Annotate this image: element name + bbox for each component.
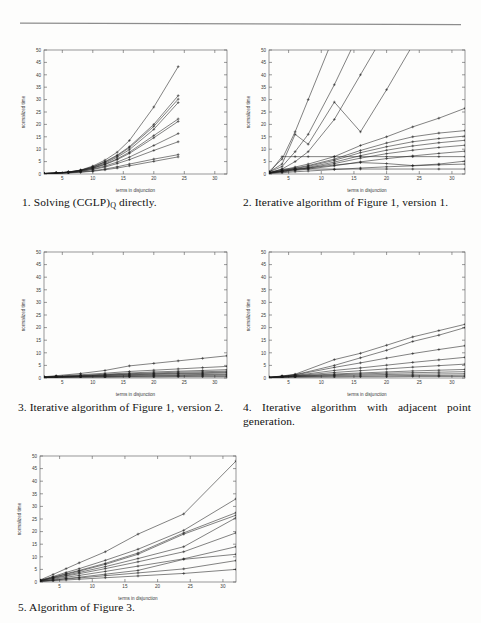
x-tick-label: 25 — [182, 176, 188, 181]
x-tick-label: 5 — [61, 176, 64, 181]
y-tick-label: 25 — [32, 517, 38, 522]
x-tick-label: 20 — [384, 176, 390, 181]
y-tick-label: 15 — [261, 135, 267, 140]
y-tick-label: 45 — [261, 60, 267, 65]
figure-4-caption: 4. Iterative algorithm with adjacent poi… — [243, 401, 471, 429]
series-line — [269, 44, 465, 173]
y-tick-label: 50 — [36, 250, 42, 255]
series-line — [44, 103, 178, 174]
y-tick-label: 5 — [34, 567, 37, 572]
y-tick-label: 50 — [32, 454, 38, 459]
y-tick-label: 20 — [261, 122, 267, 127]
figure-1-plot: 0510152025303540455051015202530terms in … — [18, 44, 233, 194]
figure-3-plot: 0510152025303540455051015202530terms in … — [18, 246, 233, 398]
x-tick-label: 15 — [122, 584, 128, 589]
plot-frame — [44, 252, 227, 378]
series-group — [43, 354, 229, 379]
x-tick-label: 5 — [287, 380, 290, 385]
x-tick-label: 20 — [151, 380, 157, 385]
y-tick-label: 40 — [32, 479, 38, 484]
series-line — [44, 67, 178, 174]
chart-svg: 0510152025303540455051015202530terms in … — [243, 44, 471, 194]
y-tick-label: 30 — [261, 300, 267, 305]
y-tick-label: 15 — [32, 542, 38, 547]
chart-svg: 0510152025303540455051015202530terms in … — [14, 450, 242, 602]
plot-frame — [269, 50, 465, 174]
x-tick-label: 15 — [351, 176, 357, 181]
y-tick-label: 25 — [261, 110, 267, 115]
x-axis-label: terms in disjunction — [347, 188, 387, 193]
x-tick-label: 10 — [90, 584, 96, 589]
y-tick-label: 40 — [261, 275, 267, 280]
y-tick-label: 25 — [36, 313, 42, 318]
y-tick-label: 10 — [261, 351, 267, 356]
y-tick-label: 30 — [32, 504, 38, 509]
y-tick-label: 45 — [261, 262, 267, 267]
y-tick-label: 20 — [36, 122, 42, 127]
y-tick-label: 40 — [36, 275, 42, 280]
y-tick-label: 20 — [32, 529, 38, 534]
x-tick-label: 10 — [90, 176, 96, 181]
y-tick-label: 45 — [36, 60, 42, 65]
figure-5-caption: 5. Algorithm of Figure 3. — [18, 601, 258, 615]
y-tick-label: 10 — [261, 147, 267, 152]
series-group — [43, 65, 180, 175]
x-axis-label: terms in disjunction — [118, 596, 158, 601]
series-line — [269, 324, 465, 377]
series-group — [268, 44, 467, 175]
figure-3-caption: 3. Iterative algorithm of Figure 1, vers… — [18, 401, 230, 415]
y-tick-label: 15 — [36, 338, 42, 343]
x-tick-label: 15 — [121, 380, 127, 385]
y-tick-label: 35 — [32, 492, 38, 497]
y-tick-label: 15 — [261, 338, 267, 343]
y-axis-label: normalized time — [17, 502, 22, 535]
y-tick-label: 15 — [36, 135, 42, 140]
figure-1-caption-text-before: Solving (CGLP) — [34, 196, 110, 208]
y-tick-label: 30 — [261, 97, 267, 102]
x-tick-label: 20 — [155, 584, 161, 589]
y-tick-label: 45 — [36, 262, 42, 267]
figure-4-plot: 0510152025303540455051015202530terms in … — [243, 246, 471, 398]
y-tick-label: 30 — [36, 300, 42, 305]
x-tick-label: 20 — [384, 380, 390, 385]
y-tick-label: 0 — [38, 172, 41, 177]
y-tick-label: 45 — [32, 466, 38, 471]
x-tick-label: 10 — [319, 380, 325, 385]
y-tick-label: 25 — [36, 110, 42, 115]
y-tick-label: 35 — [36, 288, 42, 293]
y-tick-label: 0 — [263, 172, 266, 177]
y-tick-label: 25 — [261, 313, 267, 318]
y-axis-label: normalized time — [246, 95, 251, 128]
y-tick-label: 5 — [38, 363, 41, 368]
y-axis-label: normalized time — [21, 298, 26, 331]
y-axis-label: normalized time — [246, 298, 251, 331]
series-line — [269, 161, 465, 173]
y-tick-label: 10 — [36, 351, 42, 356]
y-tick-label: 30 — [36, 97, 42, 102]
header-rule — [20, 22, 461, 26]
x-tick-label: 10 — [90, 380, 96, 385]
series-line — [44, 134, 178, 174]
x-tick-label: 30 — [212, 176, 218, 181]
series-line — [44, 121, 178, 173]
y-tick-label: 10 — [36, 147, 42, 152]
figure-2-caption: 2. Iterative algorithm of Figure 1, vers… — [243, 196, 471, 210]
series-line — [40, 499, 236, 580]
x-tick-label: 5 — [287, 176, 290, 181]
series-group — [39, 460, 238, 583]
y-tick-label: 20 — [261, 325, 267, 330]
x-axis-label: terms in disjunction — [347, 392, 387, 397]
plot-frame — [269, 252, 465, 378]
x-tick-label: 30 — [220, 584, 226, 589]
x-axis-label: terms in disjunction — [116, 188, 156, 193]
y-tick-label: 0 — [34, 580, 37, 585]
y-tick-label: 35 — [36, 85, 42, 90]
x-tick-label: 30 — [212, 380, 218, 385]
chart-svg: 0510152025303540455051015202530terms in … — [18, 246, 233, 398]
x-tick-label: 25 — [188, 584, 194, 589]
x-tick-label: 30 — [449, 176, 455, 181]
figure-5-plot: 0510152025303540455051015202530terms in … — [14, 450, 242, 602]
x-tick-label: 20 — [151, 176, 157, 181]
y-tick-label: 35 — [261, 288, 267, 293]
x-tick-label: 25 — [182, 380, 188, 385]
